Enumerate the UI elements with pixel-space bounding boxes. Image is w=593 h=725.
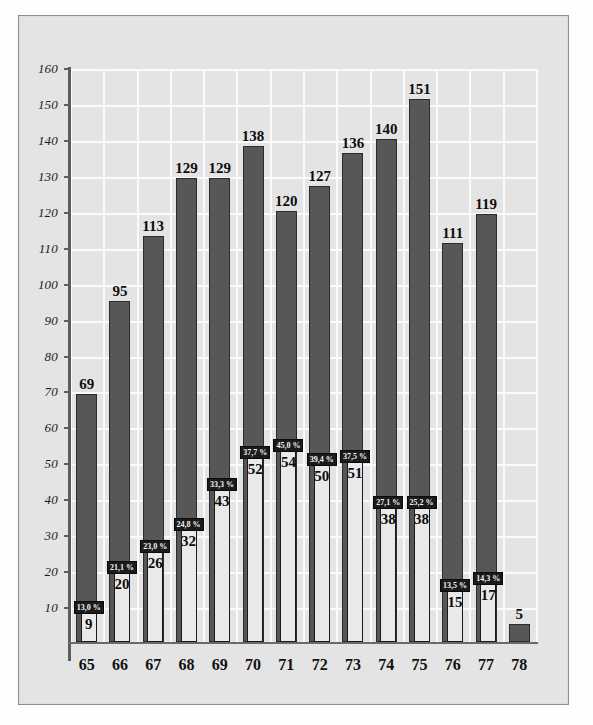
x-tick-label-68: 68 (179, 656, 195, 674)
y-tick-label-20: 20 (45, 564, 58, 580)
y-tick-mark-80 (64, 356, 70, 358)
x-tick-label-75: 75 (412, 656, 428, 674)
value-label-78: 5 (516, 606, 524, 623)
gridline-x-8 (336, 69, 338, 644)
y-tick-label-40: 40 (45, 492, 58, 508)
percent-label-67: 23,0 % (140, 540, 170, 553)
y-tick-mark-110 (64, 248, 70, 250)
subset-label-76: 15 (447, 594, 462, 611)
subset-label-70: 52 (248, 461, 263, 478)
x-tick-label-73: 73 (345, 656, 361, 674)
y-tick-mark-20 (64, 571, 70, 573)
y-tick-mark-40 (64, 499, 70, 501)
gridline-x-13 (503, 69, 505, 644)
value-label-72: 127 (308, 168, 331, 185)
value-label-66: 95 (112, 283, 127, 300)
bar-subset-73[interactable] (347, 459, 363, 642)
x-tick-label-70: 70 (245, 656, 261, 674)
gridline-x-3 (170, 69, 172, 644)
value-label-76: 111 (442, 225, 463, 242)
x-tick-label-67: 67 (145, 656, 161, 674)
y-tick-mark-60 (64, 427, 70, 429)
gridline-x-7 (303, 69, 305, 644)
gridline-x-14 (536, 69, 538, 644)
gridline-x-5 (236, 69, 238, 644)
subset-label-65: 9 (85, 616, 93, 633)
percent-label-77: 14,3 % (473, 572, 503, 585)
percent-label-70: 37,7 % (240, 446, 270, 459)
plot-area (70, 69, 536, 644)
chart-panel: 1020304050607080901001101201301401501606… (18, 15, 569, 705)
y-tick-mark-160 (64, 68, 70, 70)
y-tick-label-150: 150 (38, 97, 58, 113)
value-label-67: 113 (142, 218, 164, 235)
chart-figure: 1020304050607080901001101201301401501606… (0, 0, 593, 725)
x-tick-label-65: 65 (79, 656, 95, 674)
bar-total-78[interactable] (509, 624, 530, 642)
subset-label-67: 26 (148, 555, 163, 572)
value-label-65: 69 (79, 376, 94, 393)
x-axis-spine (68, 642, 538, 644)
y-tick-label-50: 50 (45, 456, 58, 472)
percent-label-65: 13,0 % (74, 601, 104, 614)
y-tick-label-110: 110 (39, 241, 58, 257)
value-label-68: 129 (175, 160, 198, 177)
x-tick-label-74: 74 (378, 656, 394, 674)
x-tick-label-76: 76 (445, 656, 461, 674)
y-tick-label-120: 120 (38, 205, 58, 221)
y-tick-label-80: 80 (45, 349, 58, 365)
y-tick-mark-140 (64, 140, 70, 142)
percent-label-68: 24,8 % (174, 518, 204, 531)
y-tick-label-140: 140 (38, 133, 58, 149)
y-tick-label-100: 100 (38, 277, 58, 293)
percent-label-66: 21,1 % (107, 561, 137, 574)
y-tick-label-130: 130 (38, 169, 58, 185)
percent-label-72: 39,4 % (307, 453, 337, 466)
gridline-x-6 (270, 69, 272, 644)
y-tick-mark-130 (64, 176, 70, 178)
bar-subset-70[interactable] (247, 455, 263, 642)
subset-label-74: 38 (381, 511, 396, 528)
percent-label-73: 37,5 % (340, 450, 370, 463)
percent-label-69: 33,3 % (207, 478, 237, 491)
value-label-70: 138 (242, 128, 265, 145)
x-tick-label-78: 78 (511, 656, 527, 674)
y-tick-mark-150 (64, 104, 70, 106)
gridline-x-10 (403, 69, 405, 644)
value-label-69: 129 (209, 160, 232, 177)
value-label-71: 120 (275, 193, 298, 210)
bar-subset-71[interactable] (280, 448, 296, 642)
x-tick-label-72: 72 (312, 656, 328, 674)
value-label-74: 140 (375, 121, 398, 138)
y-tick-mark-50 (64, 463, 70, 465)
subset-label-73: 51 (348, 465, 363, 482)
y-tick-label-10: 10 (45, 600, 58, 616)
gridline-x-2 (137, 69, 139, 644)
y-tick-mark-30 (64, 535, 70, 537)
x-tick-label-77: 77 (478, 656, 494, 674)
bar-subset-72[interactable] (314, 462, 330, 642)
y-tick-label-90: 90 (45, 313, 58, 329)
subset-label-77: 17 (481, 587, 496, 604)
y-tick-mark-100 (64, 284, 70, 286)
y-tick-mark-90 (64, 320, 70, 322)
gridline-x-9 (370, 69, 372, 644)
x-tick-label-71: 71 (278, 656, 294, 674)
y-tick-label-30: 30 (45, 528, 58, 544)
gridline-x-4 (203, 69, 205, 644)
gridline-x-1 (103, 69, 105, 644)
percent-label-74: 27,1 % (373, 496, 403, 509)
percent-label-71: 45,0 % (273, 439, 303, 452)
percent-label-75: 25,2 % (407, 496, 437, 509)
gridline-x-11 (436, 69, 438, 644)
percent-label-76: 13,5 % (440, 579, 470, 592)
subset-label-68: 32 (181, 533, 196, 550)
y-tick-label-160: 160 (38, 61, 58, 77)
value-label-77: 119 (475, 196, 497, 213)
subset-label-75: 38 (414, 511, 429, 528)
y-tick-mark-10 (64, 607, 70, 609)
y-tick-mark-70 (64, 391, 70, 393)
subset-label-72: 50 (314, 468, 329, 485)
y-tick-mark-120 (64, 212, 70, 214)
subset-label-71: 54 (281, 454, 296, 471)
